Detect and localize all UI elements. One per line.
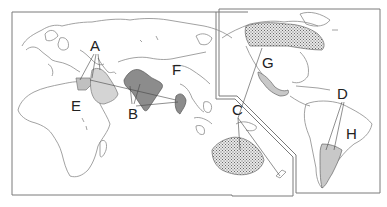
map-label-g: G [262,55,274,70]
map-label-a: A [90,38,100,53]
map-label-b: B [128,106,138,121]
europe-outline [22,19,232,77]
map-label-f: F [172,62,181,77]
left-panel-frame [12,12,248,195]
map-label-d: D [337,86,348,101]
egypt-levant-region [76,78,92,90]
canada-region [245,23,324,50]
world-map [0,0,387,207]
mexico-region [258,72,289,96]
map-label-e: E [71,98,81,113]
map-label-h: H [346,126,357,141]
argentina-region [320,144,342,188]
arabian-peninsula [91,68,119,104]
map-label-c: C [232,102,243,117]
southeast-asia-region [175,94,186,114]
